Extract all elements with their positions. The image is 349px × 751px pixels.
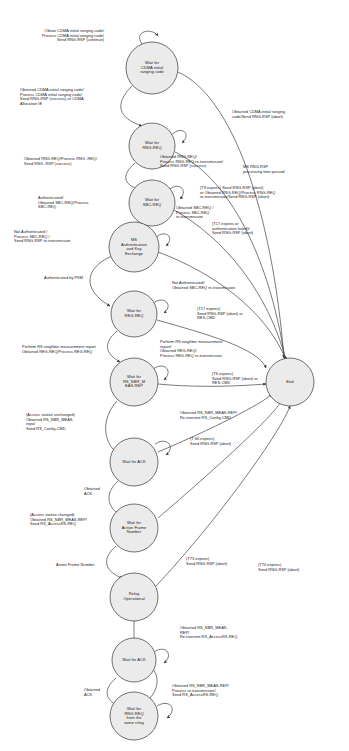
edge-s7-s8	[109, 481, 118, 514]
edge-label-l20: (T 66 expires) Send RNG-RSP (abort)	[190, 437, 231, 446]
edge-label-l14: (T17 expires) Send RNG-RSP (abort) or RE…	[197, 307, 243, 321]
edge-label-l18: Obtained RS_NBR_MEAS-REP/ Re-transmit RS…	[180, 411, 237, 420]
edge-label-l5: Obtained RNG-REQ/ Process RNG-REQ re-tra…	[160, 155, 223, 169]
edge-s8-s9	[107, 546, 122, 578]
edge-label-l23: Action Frame Number	[56, 563, 95, 568]
edge-label-l12: Authenticated by PKM	[44, 276, 83, 281]
edge-s1-s2	[121, 86, 142, 126]
state-node-s7	[110, 438, 158, 486]
state-node-s3	[129, 180, 175, 226]
edge-label-l7: (T9 expires) Send RNG-RSP (abort) or Obt…	[200, 186, 275, 200]
edge-label-l10: (T17 expires or authentication failed)/ …	[212, 222, 253, 236]
edge-label-l27: Obtained ACK	[84, 688, 100, 697]
edge-label-l4: Obtained RNG-REQ/Process RNG -REQ/ Send …	[24, 157, 97, 166]
edge-label-l3: Obtained CDMA initial ranging code/Send …	[232, 110, 285, 119]
diagram-canvas: Wait for CDMA initial ranging codeWait f…	[0, 0, 349, 751]
edge-label-l26: Obtained RS_NBR_MEAS- REP/ Re-transmit R…	[180, 626, 237, 640]
edge-s5-s6	[107, 331, 120, 362]
edge-label-l2: Obtained CDMA initial ranging code/ Proc…	[20, 88, 84, 106]
edge-s4-s5	[90, 256, 112, 306]
edge-label-l6: MS RNG-RSP processing time passed	[243, 165, 285, 174]
state-node-s5	[111, 291, 157, 337]
edge-label-l9: Obtained SBC-REQ / Process SBC-REQ re-tr…	[176, 206, 213, 220]
edge-label-l17: (T6 expires) Send RNG-RSP (abort) or RES…	[212, 372, 258, 386]
edge-self-s11	[157, 703, 172, 718]
state-node-s8	[110, 504, 158, 552]
edge-s6-s7	[106, 401, 117, 452]
state-node-s9	[110, 573, 158, 621]
edge-label-l11: Not Authenticated / Process SBC-REQ / Se…	[14, 230, 71, 244]
edge-label-l25: (T70 expires) Send RNG-RSP (abort)	[258, 563, 299, 572]
edge-label-l8: Authenticated/ Obtained SBC-REQ/Process …	[38, 196, 88, 210]
state-node-s6	[110, 358, 158, 406]
edge-label-l22: (Access station changed) Obtained RS_NBR…	[30, 513, 87, 527]
edge-label-l1: Obtain CDMA initial ranging code/ Proces…	[42, 29, 104, 43]
edge-label-l16: Perform RS neighbor measurement report/ …	[160, 340, 222, 358]
edge-label-l19: (Access station unchanged) Obtained RS_N…	[26, 413, 75, 431]
edge-label-l13: Not Authenticated/ Obtained SBC-REQ re-t…	[172, 281, 235, 290]
edge-label-l28: Obtained RS_NBR_MEAS-REP/ Process re-tra…	[172, 684, 229, 698]
state-node-end	[266, 358, 314, 406]
state-machine-svg	[0, 0, 349, 751]
edge-label-l21: Obtained ACK	[84, 487, 100, 496]
state-node-s10	[112, 638, 156, 682]
state-node-s11	[110, 692, 158, 740]
edge-label-l24: (T73 expires) Send RNG-RSP (abort)	[186, 557, 227, 566]
state-node-s4	[109, 222, 159, 272]
state-node-s1	[126, 42, 178, 94]
edge-label-l15: Perform RS neighbor measurement report O…	[22, 345, 96, 354]
